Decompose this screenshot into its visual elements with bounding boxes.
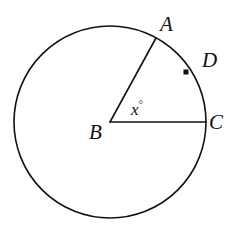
degree-symbol-icon: ° <box>139 98 143 110</box>
angle-measure-label: x° <box>131 101 143 118</box>
point-d-dot-marker <box>184 70 189 75</box>
circle-geometry-diagram: A B C D x° <box>0 0 241 230</box>
point-label-c: C <box>209 112 223 133</box>
point-label-d: D <box>202 50 217 71</box>
geometry-canvas <box>0 0 241 230</box>
point-label-b: B <box>89 122 102 143</box>
point-label-a: A <box>160 14 173 35</box>
angle-variable-text: x <box>131 100 139 119</box>
